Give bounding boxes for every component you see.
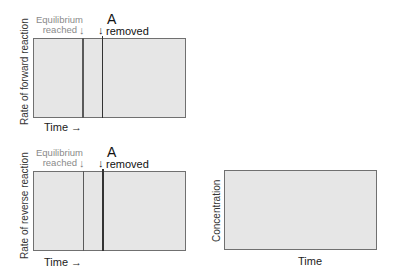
concentration-y-axis-label: Concentration bbox=[211, 180, 222, 242]
event-label: removed bbox=[106, 25, 149, 37]
equilibrium-label: Equilibrium reached bbox=[36, 15, 83, 35]
forward-rate-plot-area bbox=[33, 38, 186, 118]
equilibrium-label: Equilibrium reached bbox=[36, 148, 83, 168]
equilibrium-label-line2: reached bbox=[36, 25, 77, 35]
event-letter: A bbox=[107, 145, 116, 159]
concentration-x-axis-label: Time bbox=[298, 255, 322, 267]
reverse-rate-plot-area bbox=[33, 171, 186, 251]
equilibrium-line bbox=[83, 171, 85, 251]
equilibrium-arrow-icon: ↓ bbox=[79, 25, 85, 36]
concentration-plot-area bbox=[224, 170, 377, 250]
forward-rate-x-axis-label: Time → bbox=[44, 121, 82, 133]
equilibrium-arrow-icon: ↓ bbox=[79, 158, 85, 169]
event-arrow-icon: ↓ bbox=[98, 25, 104, 36]
event-letter: A bbox=[107, 12, 116, 26]
event-line bbox=[102, 36, 104, 118]
reverse-rate-x-axis-label: Time → bbox=[44, 256, 82, 268]
reverse-rate-y-axis-label: Rate of reverse reaction bbox=[19, 152, 30, 259]
forward-rate-y-axis-label: Rate of forward reaction bbox=[19, 18, 30, 125]
event-label: removed bbox=[106, 158, 149, 170]
event-line bbox=[102, 169, 104, 251]
event-arrow-icon: ↓ bbox=[98, 158, 104, 169]
equilibrium-label-line2: reached bbox=[36, 158, 77, 168]
equilibrium-line bbox=[82, 38, 84, 118]
